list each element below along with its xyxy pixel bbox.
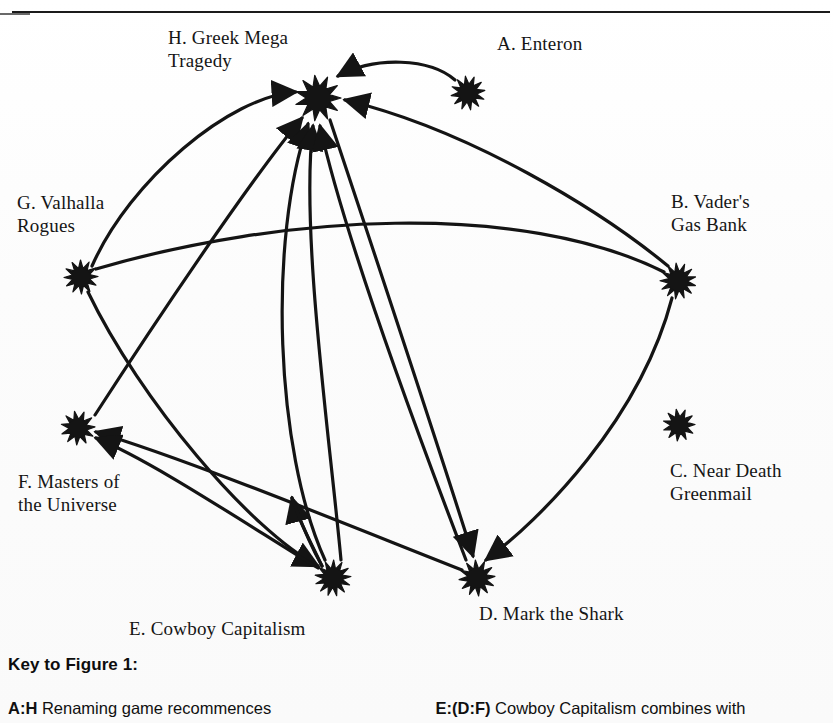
node-label-line: E. Cowboy Capitalism bbox=[129, 617, 306, 640]
edge-G-to-B bbox=[96, 223, 664, 272]
edges-layer bbox=[88, 62, 672, 570]
node-label-line: Greenmail bbox=[670, 482, 782, 505]
node-label-d: D. Mark the Shark bbox=[479, 602, 624, 625]
node-c[interactable] bbox=[664, 409, 695, 441]
node-core-c bbox=[670, 416, 688, 434]
node-label-line: Rogues bbox=[17, 214, 104, 237]
node-core-f bbox=[69, 419, 88, 438]
node-core-e bbox=[323, 568, 343, 588]
node-label-line: B. Vader's bbox=[671, 190, 750, 213]
node-label-h: H. Greek MegaTragedy bbox=[168, 26, 288, 72]
node-core-g bbox=[72, 268, 91, 287]
node-label-a: A. Enteron bbox=[497, 32, 582, 55]
figure-page: H. Greek MegaTragedyA. EnteronB. Vader's… bbox=[0, 0, 833, 723]
node-core-b bbox=[668, 271, 688, 291]
network-diagram-canvas bbox=[0, 0, 833, 723]
node-a[interactable] bbox=[451, 76, 485, 110]
node-label-line: H. Greek Mega bbox=[168, 26, 288, 49]
node-label-line: A. Enteron bbox=[497, 32, 582, 55]
node-label-f: F. Masters ofthe Universe bbox=[18, 470, 120, 516]
node-label-line: C. Near Death bbox=[670, 459, 782, 482]
node-label-e: E. Cowboy Capitalism bbox=[129, 617, 306, 640]
node-label-line: D. Mark the Shark bbox=[479, 602, 624, 625]
key-clip-region: Key to Figure 1: A:H Renaming game recom… bbox=[0, 655, 833, 723]
key-entry: E:(D:F) Cowboy Capitalism combines with bbox=[436, 698, 833, 719]
key-entry-text: Renaming game recommences bbox=[42, 699, 271, 717]
node-h[interactable] bbox=[296, 75, 341, 121]
node-label-line: Gas Bank bbox=[671, 213, 750, 236]
key-entry-text: Cowboy Capitalism combines with bbox=[495, 699, 745, 717]
key-to-figure: Key to Figure 1: A:H Renaming game recom… bbox=[8, 655, 833, 675]
node-label-c: C. Near DeathGreenmail bbox=[670, 459, 782, 505]
edge-A-to-H bbox=[338, 62, 455, 80]
edge-F-to-H bbox=[95, 118, 302, 415]
node-d[interactable] bbox=[459, 560, 495, 596]
key-column-right: E:(D:F) Cowboy Capitalism combines with bbox=[436, 698, 833, 719]
node-label-line: Tragedy bbox=[168, 49, 288, 72]
edge-D-to-H bbox=[320, 126, 466, 560]
node-label-line: F. Masters of bbox=[18, 470, 120, 493]
key-title: Key to Figure 1: bbox=[8, 655, 833, 675]
node-b[interactable] bbox=[660, 263, 696, 299]
key-column-left: A:H Renaming game recommences bbox=[8, 698, 406, 719]
edge-B-to-H bbox=[345, 100, 668, 266]
key-columns: A:H Renaming game recommences E:(D:F) Co… bbox=[8, 698, 833, 719]
node-core-d bbox=[467, 568, 487, 588]
key-entry-code: A:H bbox=[8, 699, 37, 717]
node-label-line: the Universe bbox=[18, 493, 120, 516]
key-entry-code: E:(D:F) bbox=[436, 699, 491, 717]
node-core-a bbox=[459, 84, 478, 103]
node-label-g: G. ValhallaRogues bbox=[17, 191, 104, 237]
edge-E-to-F bbox=[96, 438, 318, 568]
node-f[interactable] bbox=[61, 411, 95, 445]
edge-H-to-D bbox=[330, 120, 473, 556]
edge-B-to-D bbox=[486, 298, 672, 560]
node-label-b: B. Vader'sGas Bank bbox=[671, 190, 750, 236]
node-label-line: G. Valhalla bbox=[17, 191, 104, 214]
edge-D-to-F bbox=[96, 432, 462, 570]
node-core-h bbox=[305, 85, 330, 110]
nodes-layer bbox=[61, 75, 695, 596]
edge-G-to-H bbox=[92, 92, 296, 266]
key-entry: A:H Renaming game recommences bbox=[8, 698, 406, 719]
